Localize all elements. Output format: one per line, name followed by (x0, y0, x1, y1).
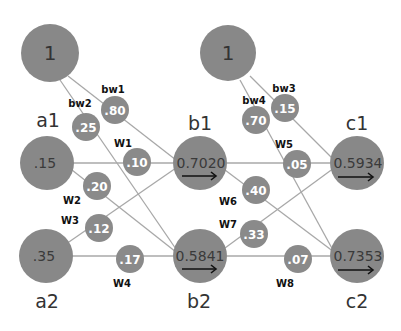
weight-label-bw3: bw3 (272, 83, 295, 94)
c2-value: 0.7353 (334, 248, 383, 264)
weight-label-w7: W7 (219, 219, 237, 230)
edge-a2-b1 (66, 168, 176, 244)
a2-value: .35 (33, 248, 55, 264)
c1-value: 0.5934 (334, 155, 383, 171)
weight-w8-value: .07 (287, 253, 308, 267)
node-label-c2: c2 (346, 290, 369, 312)
weight-w6-value: .40 (245, 184, 266, 198)
hidden-node-b2: 0.5841 (173, 229, 227, 283)
weight-label-bw2: bw2 (68, 98, 91, 109)
b2-value: 0.5841 (176, 248, 225, 264)
weight-w2: .20 (83, 172, 111, 200)
node-label-c1: c1 (346, 112, 369, 134)
output-node-c2: 0.7353 (330, 229, 384, 283)
bias-node-2-value: 1 (222, 41, 235, 65)
a1-value: .15 (34, 155, 56, 171)
weight-w1: .10 (123, 148, 151, 176)
weight-label-w6: W6 (219, 196, 237, 207)
weight-w7: .33 (240, 220, 268, 248)
weight-label-w3: W3 (61, 215, 79, 226)
bias-node-1-value: 1 (44, 41, 57, 65)
weight-label-bw4: bw4 (242, 95, 265, 106)
weight-w6: .40 (242, 176, 270, 204)
weight-bw2: .25 (72, 113, 100, 141)
neural-network-diagram: 1 1 a1 .15 .35 a2 b1 0.7020 0.5841 b2 c1 (0, 0, 401, 331)
weight-w2-value: .20 (86, 180, 107, 194)
weight-label-w4: W4 (113, 278, 131, 289)
node-label-b2: b2 (187, 290, 211, 312)
weight-label-bw1: bw1 (101, 84, 124, 95)
weight-bw1-value: .80 (104, 104, 125, 118)
weight-bw4-value: .70 (245, 114, 266, 128)
weight-w5-value: .05 (286, 158, 307, 172)
hidden-node-b1: 0.7020 (173, 136, 227, 190)
weight-bw1: .80 (101, 96, 129, 124)
output-node-c1: 0.5934 (330, 136, 384, 190)
b1-value: 0.7020 (177, 155, 226, 171)
weight-bw3: .15 (271, 94, 299, 122)
weight-bw4: .70 (242, 106, 270, 134)
weight-bw2-value: .25 (75, 121, 96, 135)
weight-w5: .05 (283, 150, 311, 178)
node-label-b1: b1 (188, 112, 212, 134)
node-label-a2: a2 (35, 290, 59, 312)
weight-label-w1: W1 (114, 138, 132, 149)
node-label-a1: a1 (36, 109, 60, 131)
weight-w3-value: .12 (88, 222, 109, 236)
weight-bw3-value: .15 (274, 102, 295, 116)
bias-node-1: 1 (21, 24, 79, 82)
weight-w1-value: .10 (126, 156, 147, 170)
input-node-a2: .35 (19, 229, 73, 283)
input-node-a1: .15 (20, 136, 74, 190)
weight-w8: .07 (284, 245, 312, 273)
weight-w4-value: .17 (119, 253, 140, 267)
weight-w4: .17 (116, 245, 144, 273)
weight-label-w2: W2 (63, 195, 81, 206)
weight-label-w5: W5 (275, 139, 293, 150)
weight-label-w8: W8 (276, 278, 294, 289)
weight-w7-value: .33 (243, 228, 264, 242)
weight-w3: .12 (85, 214, 113, 242)
bias-node-2: 1 (200, 25, 256, 81)
